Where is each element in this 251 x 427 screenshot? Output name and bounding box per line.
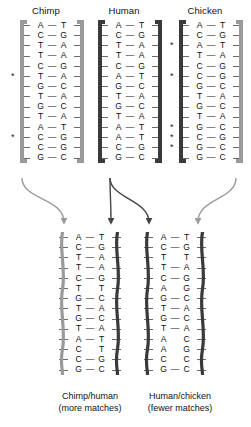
base-right: T [97, 345, 106, 354]
base-right: G [59, 62, 68, 71]
base-pair-row: A—T [20, 122, 84, 132]
base-left: T [159, 304, 168, 313]
base-right: T [97, 284, 106, 293]
base-right: A [59, 72, 68, 81]
base-right: T [137, 72, 146, 81]
base-pair-row: G—C* [179, 142, 243, 152]
base-pair-row: T—A [179, 51, 243, 61]
base-right: T [182, 253, 191, 262]
base-left: C [159, 243, 168, 252]
hydrogen-bond: — [45, 82, 59, 91]
base-pair-row: C—G [179, 30, 243, 40]
hydrogen-bond: — [168, 274, 182, 283]
base-left: A [36, 21, 45, 30]
dna-ladder-chicken: A—TC—GA—T*T—AC—GC—G*G—CT—AG—CT—AG—C*C—G*… [179, 20, 243, 163]
backbone-right [158, 20, 162, 163]
base-left: G [195, 123, 204, 132]
hydrogen-bond: — [83, 274, 97, 283]
base-pair-row: C—G [20, 30, 84, 40]
base-pair-row: G—C [179, 81, 243, 91]
hydrogen-bond: — [45, 41, 59, 50]
base-right: G [182, 243, 191, 252]
hydrogen-bond: — [168, 233, 182, 242]
hydrogen-bond: — [204, 112, 218, 121]
base-left: G [114, 82, 123, 91]
base-pair-row: C—G* [179, 132, 243, 142]
hydrogen-bond: — [45, 112, 59, 121]
hydrogen-bond: — [204, 72, 218, 81]
base-pair-row: C—G [98, 61, 162, 71]
caption-human-chicken-line2: (fewer matches) [124, 402, 236, 414]
base-left: C [74, 355, 83, 364]
base-left: T [74, 324, 83, 333]
base-left: C [74, 274, 83, 283]
base-pair-row: A—T [179, 20, 243, 30]
base-pair-row: A—T [98, 132, 162, 142]
hydrogen-bond: — [168, 365, 182, 374]
base-right: G [182, 345, 191, 354]
base-right: A [97, 263, 106, 272]
base-pair-row: C—G* [20, 132, 84, 142]
base-left: C [114, 143, 123, 152]
mismatch-asterisk-marker: * [170, 123, 174, 132]
base-left: C [36, 31, 45, 40]
hydrogen-bond: — [45, 62, 59, 71]
base-left: G [36, 102, 45, 111]
mismatch-asterisk-marker: * [170, 143, 174, 152]
hydrogen-bond: — [168, 263, 182, 272]
base-right: T [218, 41, 227, 50]
base-pair-row: G—C [20, 81, 84, 91]
base-left: C [114, 62, 123, 71]
base-right: T [182, 233, 191, 242]
base-right: G [97, 274, 106, 283]
base-left: C [195, 62, 204, 71]
base-right: G [59, 143, 68, 152]
base-pair-row: A—T [98, 20, 162, 30]
base-left: A [114, 72, 123, 81]
base-right: T [97, 233, 106, 242]
base-left: C [195, 72, 204, 81]
base-pair-row: A—T [20, 20, 84, 30]
base-pair-row: T—A [20, 51, 84, 61]
base-left: T [36, 112, 45, 121]
base-left: C [74, 345, 83, 354]
base-pair-row: C—G* [179, 71, 243, 81]
base-right: A [59, 51, 68, 60]
base-left: G [195, 82, 204, 91]
base-pair-row: A—T* [179, 40, 243, 50]
backbone-left [58, 232, 67, 375]
base-pair-row: G—C [98, 102, 162, 112]
backbone-left [20, 20, 24, 163]
base-right: A [218, 51, 227, 60]
base-right: C [182, 365, 191, 374]
base-left: C [114, 31, 123, 40]
column-title-human: Human [92, 5, 156, 16]
base-left: T [36, 51, 45, 60]
base-right: G [59, 133, 68, 142]
base-right: C [97, 314, 106, 323]
caption-human-chicken-line1: Human/chicken [124, 390, 236, 402]
hydrogen-bond: — [168, 304, 182, 313]
backbone-left [98, 20, 102, 163]
base-pair-row: C—G [98, 142, 162, 152]
base-right: C [218, 143, 227, 152]
base-left: T [36, 72, 45, 81]
base-left: G [195, 153, 204, 162]
caption-human-chicken: Human/chicken (fewer matches) [124, 390, 236, 414]
hydrogen-bond: — [45, 143, 59, 152]
base-pair-row: T—A [98, 40, 162, 50]
mismatch-gap [168, 345, 182, 354]
base-left: A [114, 133, 123, 142]
hydrogen-bond: — [204, 153, 218, 162]
base-pair-row: G—C [20, 152, 84, 162]
backbone-right [113, 232, 122, 375]
mismatch-asterisk-marker: * [170, 72, 174, 81]
base-right: C [137, 102, 146, 111]
dna-ladder-human-chicken: A—TC—GT TT—AC—GA GG—CT—AG—CT—AA CA GC CG… [143, 232, 207, 375]
hydrogen-bond: — [45, 102, 59, 111]
base-left: A [36, 123, 45, 132]
hydrogen-bond: — [83, 304, 97, 313]
base-left: T [114, 41, 123, 50]
arrow-human-to-chimphuman [110, 178, 111, 222]
base-left: A [195, 41, 204, 50]
